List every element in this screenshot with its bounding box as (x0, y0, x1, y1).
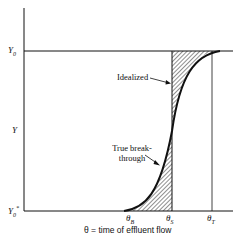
idealized-label: Idealized (117, 72, 148, 82)
y-label: Y (12, 125, 17, 135)
theta-t-label: θT (207, 213, 215, 227)
true-breakthrough-label: True break- through (107, 143, 157, 163)
y0-star-label: Y0* (8, 203, 19, 220)
y0-label: Y0 (8, 45, 16, 59)
x-axis-title: θ = time of effluent flow (84, 225, 172, 235)
breakthrough-diagram (0, 0, 250, 240)
hatched-region-upper (172, 51, 215, 131)
